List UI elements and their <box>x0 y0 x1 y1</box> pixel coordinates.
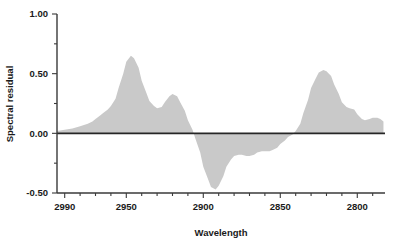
y-tick-label: 1.00 <box>30 8 49 19</box>
y-axis-title: Spectral residual <box>4 66 15 143</box>
spectral-residual-figure: 1.000.500.00-0.50 29902950290028502800 W… <box>0 0 407 248</box>
x-tick-label: 2990 <box>54 201 75 212</box>
x-tick-label: 2800 <box>347 201 368 212</box>
y-tick-label: 0.50 <box>30 68 49 79</box>
chart-canvas: 1.000.500.00-0.50 29902950290028502800 W… <box>0 0 407 248</box>
y-tick-label: 0.00 <box>30 128 49 139</box>
x-axis-ticks <box>65 193 373 198</box>
x-axis-title: Wavelength <box>195 227 248 238</box>
y-axis-tick-labels: 1.000.500.00-0.50 <box>26 8 48 198</box>
x-tick-label: 2850 <box>270 201 291 212</box>
y-tick-label: -0.50 <box>26 187 48 198</box>
x-tick-label: 2900 <box>193 201 214 212</box>
x-axis-tick-labels: 29902950290028502800 <box>54 201 368 212</box>
y-axis-ticks <box>52 14 57 193</box>
x-tick-label: 2950 <box>116 201 137 212</box>
